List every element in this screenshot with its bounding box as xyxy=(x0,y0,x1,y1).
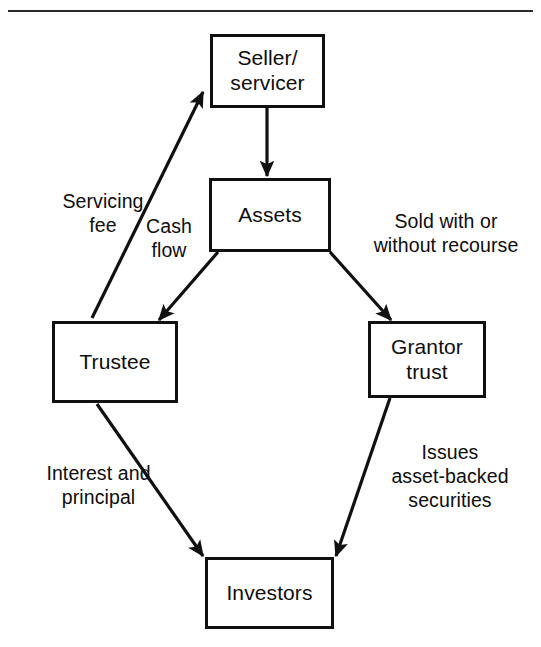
node-grantor-trust-label: Grantor trust xyxy=(391,335,463,385)
node-grantor-trust: Grantor trust xyxy=(368,321,486,398)
node-seller-servicer: Seller/ servicer xyxy=(210,34,325,108)
edge-label-cash-flow: Cash flow xyxy=(130,215,208,263)
edge-label-issues-asset-backed-securities: Issues asset-backed securities xyxy=(370,441,530,512)
securitization-flow-diagram: Seller/ servicer Assets Trustee Grantor … xyxy=(0,0,541,647)
node-investors: Investors xyxy=(205,557,334,629)
edge-label-sold-with-or-without-recourse: Sold with or without recourse xyxy=(357,210,535,258)
edge-assets-to-grantor xyxy=(330,252,391,320)
node-investors-label: Investors xyxy=(226,581,312,606)
node-assets: Assets xyxy=(209,178,331,252)
node-seller-servicer-label: Seller/ servicer xyxy=(230,46,304,96)
node-trustee: Trustee xyxy=(52,321,178,403)
node-assets-label: Assets xyxy=(238,203,302,228)
node-trustee-label: Trustee xyxy=(79,350,150,375)
edge-label-interest-and-principal: Interest and principal xyxy=(21,462,176,510)
